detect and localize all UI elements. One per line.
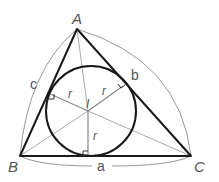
side-label-b: b bbox=[131, 67, 139, 83]
side-label-c: c bbox=[30, 76, 37, 92]
right-angle-mark-ac bbox=[118, 84, 125, 88]
vertex-label-b: B bbox=[8, 158, 18, 175]
bisector-c bbox=[88, 111, 191, 156]
incircle-diagram: A B C I a b c r r r bbox=[0, 0, 219, 182]
side-label-a: a bbox=[97, 158, 105, 174]
vertex-label-a: A bbox=[71, 10, 82, 27]
vertex-label-c: C bbox=[194, 158, 205, 175]
arc-side-a-right bbox=[112, 156, 191, 166]
radius-label-2: r bbox=[102, 84, 107, 98]
radius-label-3: r bbox=[93, 129, 98, 143]
incenter-label: I bbox=[86, 97, 90, 111]
arc-side-a-left bbox=[20, 156, 92, 166]
radius-label-1: r bbox=[68, 87, 73, 101]
